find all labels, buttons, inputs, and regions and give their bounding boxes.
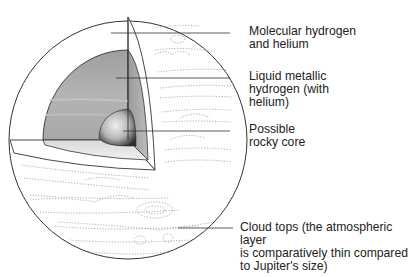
jupiter-diagram: Molecular hydrogen and helium Liquid met… [0,0,419,277]
label-rocky-core: Possible rocky core [249,123,305,149]
label-cloud-tops: Cloud tops (the atmospheric layer is com… [240,221,419,273]
label-liquid-metallic-hydrogen: Liquid metallic hydrogen (with helium) [249,70,329,109]
label-molecular-hydrogen: Molecular hydrogen and helium [249,25,356,51]
